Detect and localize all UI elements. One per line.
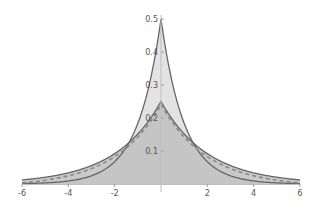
y-tick-label: 0.5	[145, 15, 158, 24]
y-tick-label: 0.1	[145, 147, 158, 156]
y-tick-label: 0.2	[145, 114, 158, 123]
x-tick-label: 2	[205, 189, 210, 198]
y-tick-label: 0.3	[145, 81, 158, 90]
x-tick-label: 6	[297, 189, 302, 198]
x-axis: -6-4-2246	[18, 184, 303, 198]
x-tick-label: -2	[111, 189, 119, 198]
x-tick-label: 4	[251, 189, 256, 198]
chart: -6-4-2246 0.10.20.30.40.5	[0, 0, 319, 210]
y-tick-label: 0.4	[145, 48, 158, 57]
x-tick-label: -4	[64, 189, 72, 198]
x-tick-label: -6	[18, 189, 26, 198]
